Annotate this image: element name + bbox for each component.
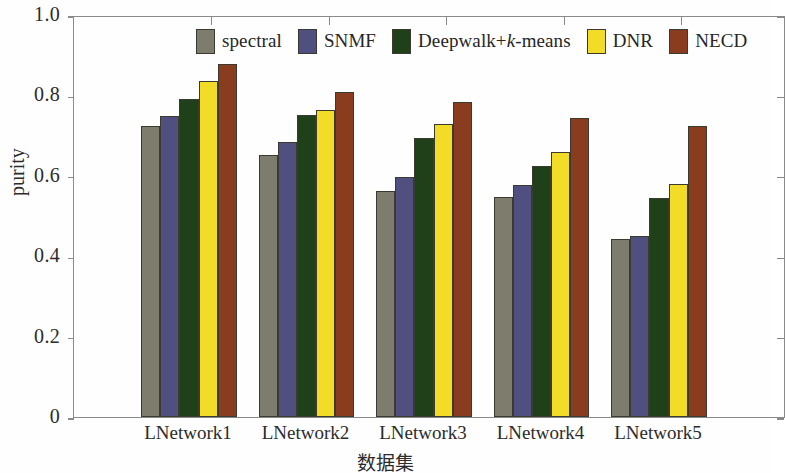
- bar: [160, 116, 179, 418]
- legend-swatch-icon: [669, 29, 688, 54]
- bar: [395, 177, 414, 417]
- bar: [649, 198, 668, 417]
- x-axis-tick-label: LNetwork5: [600, 422, 716, 444]
- y-axis-tick: [68, 338, 74, 339]
- bar: [297, 115, 316, 417]
- y-axis-tick-label: 0.8: [0, 83, 60, 106]
- bar: [376, 191, 395, 417]
- legend-swatch-icon: [587, 29, 606, 54]
- x-axis-tick-label: LNetwork4: [483, 422, 599, 444]
- bar: [494, 197, 513, 417]
- y-axis-tick-right: [777, 16, 784, 17]
- y-axis-tick: [68, 16, 74, 17]
- x-axis-tick-label: LNetwork3: [365, 422, 481, 444]
- legend-entry-necd: NECD: [669, 29, 747, 54]
- bar: [199, 81, 218, 417]
- legend-label: SNMF: [324, 30, 376, 52]
- legend-entry-deepwalk-k-means: Deepwalk+k-means: [392, 29, 571, 54]
- y-axis-tick-right: [777, 338, 784, 339]
- y-axis-tick: [68, 418, 74, 419]
- legend-swatch-icon: [196, 29, 215, 54]
- x-axis-tick-label: LNetwork2: [248, 422, 364, 444]
- bar: [414, 138, 433, 417]
- legend-label: NECD: [695, 30, 747, 52]
- y-axis-tick: [68, 177, 74, 178]
- bar: [630, 236, 649, 417]
- legend-label: spectral: [222, 30, 282, 52]
- y-axis-tick-label: 1.0: [0, 3, 60, 26]
- bar: [570, 118, 589, 417]
- legend-entry-spectral: spectral: [196, 29, 282, 54]
- bar: [688, 126, 707, 417]
- x-axis-tick-top: [564, 17, 565, 25]
- x-axis-tick-top: [681, 17, 682, 25]
- bar: [551, 152, 570, 417]
- y-axis-tick-right: [777, 177, 784, 178]
- y-axis-tick-label: 0.6: [0, 164, 60, 187]
- y-axis-tick-label: 0.4: [0, 244, 60, 267]
- bar: [669, 184, 688, 417]
- x-axis-title: 数据集: [0, 448, 770, 473]
- x-axis-tick-top: [329, 17, 330, 25]
- chart-legend: spectralSNMFDeepwalk+k-meansDNRNECD: [196, 27, 763, 55]
- y-axis-tick-right: [777, 97, 784, 98]
- y-axis-tick-label: 0: [0, 405, 60, 428]
- bar: [316, 110, 335, 417]
- legend-swatch-icon: [392, 29, 411, 54]
- bar: [453, 102, 472, 417]
- legend-swatch-icon: [298, 29, 317, 54]
- x-axis-tick-top: [211, 17, 212, 25]
- bar: [141, 126, 160, 417]
- bar: [434, 124, 453, 417]
- bar: [513, 185, 532, 417]
- y-axis-tick: [68, 97, 74, 98]
- bar: [259, 155, 278, 417]
- legend-entry-dnr: DNR: [587, 29, 653, 54]
- y-axis-tick-right: [777, 258, 784, 259]
- y-axis-tick: [68, 258, 74, 259]
- plot-area: [73, 16, 785, 418]
- legend-label: Deepwalk+k-means: [418, 30, 571, 52]
- bar: [179, 99, 198, 417]
- bar: [218, 64, 237, 417]
- y-axis-tick-label: 0.2: [0, 325, 60, 348]
- bar: [278, 142, 297, 417]
- y-axis-tick-right: [777, 418, 784, 419]
- legend-label: DNR: [613, 30, 653, 52]
- x-axis-tick-top: [446, 17, 447, 25]
- bar: [611, 239, 630, 417]
- bar: [335, 92, 354, 417]
- x-axis-tick-label: LNetwork1: [130, 422, 246, 444]
- bar: [532, 166, 551, 417]
- legend-entry-snmf: SNMF: [298, 29, 376, 54]
